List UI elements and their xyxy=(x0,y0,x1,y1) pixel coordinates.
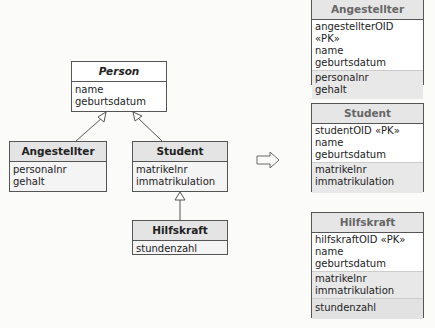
table-hilfskraft: Hilfskraft hilfskraftOID «PK» name gebur… xyxy=(311,212,424,318)
table-title: Hilfskraft xyxy=(312,213,423,233)
class-student: Student matrikelnr immatrikulation xyxy=(132,141,228,192)
column: stundenzahl xyxy=(315,300,420,316)
table-title: Angestellter xyxy=(312,0,423,20)
column: geburtsdatum xyxy=(315,57,420,69)
column: personalnr xyxy=(315,72,420,84)
table-title: Student xyxy=(312,104,423,124)
column: immatrikulation xyxy=(315,176,420,188)
class-title: Student xyxy=(133,142,227,162)
class-title: Angestellter xyxy=(10,142,106,162)
column: geburtsdatum xyxy=(315,149,420,161)
attribute: gehalt xyxy=(13,176,103,188)
attribute: matrikelnr xyxy=(136,164,224,176)
attribute: stundenzahl xyxy=(136,243,224,255)
column: gehalt xyxy=(315,84,420,96)
column: matrikelnr xyxy=(315,164,420,176)
class-title: Hilfskraft xyxy=(133,221,227,241)
column: name xyxy=(315,137,420,149)
class-angestellter: Angestellter personalnr gehalt xyxy=(9,141,107,192)
attribute: personalnr xyxy=(13,164,103,176)
attribute: immatrikulation xyxy=(136,176,224,188)
class-hilfskraft: Hilfskraft stundenzahl xyxy=(132,220,228,255)
attribute: geburtsdatum xyxy=(75,96,163,108)
column: immatrikulation xyxy=(315,285,420,297)
column: matrikelnr xyxy=(315,273,420,285)
column: name xyxy=(315,246,420,258)
primary-key: studentOID «PK» xyxy=(315,125,420,137)
table-angestellter: Angestellter angestellterOID «PK» name g… xyxy=(311,0,424,85)
right-arrow-icon xyxy=(257,152,279,168)
column: name xyxy=(315,45,420,57)
table-student: Student studentOID «PK» name geburtsdatu… xyxy=(311,103,424,192)
class-person: Person name geburtsdatum xyxy=(71,61,167,112)
attribute: name xyxy=(75,84,163,96)
primary-key: hilfskraftOID «PK» xyxy=(315,234,420,246)
primary-key: angestellterOID «PK» xyxy=(315,21,420,45)
class-title: Person xyxy=(72,62,166,82)
column: geburtsdatum xyxy=(315,258,420,270)
